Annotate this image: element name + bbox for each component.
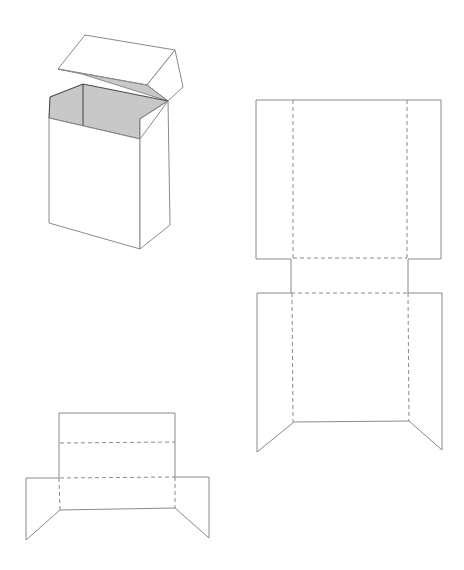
- small-template: [26, 413, 209, 540]
- box-side-face: [140, 101, 170, 249]
- fold-line-bottom-right: [408, 293, 409, 421]
- diagram-canvas: [0, 0, 464, 570]
- large-template-outline: [256, 100, 442, 452]
- fold-line-small-lower: [60, 477, 175, 478]
- assembled-box: [49, 35, 183, 249]
- box-front-face: [49, 118, 140, 249]
- large-template: [256, 100, 442, 452]
- small-template-outline: [26, 413, 209, 540]
- fold-line-small-upper: [60, 442, 175, 443]
- fold-line-small-left: [59, 478, 60, 510]
- fold-line-bottom-left: [292, 293, 293, 422]
